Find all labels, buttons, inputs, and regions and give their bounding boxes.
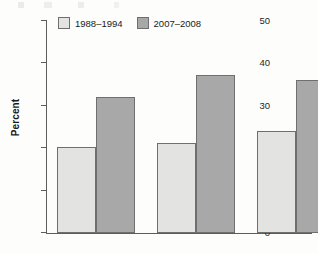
y-axis-label: Percent bbox=[10, 83, 21, 153]
legend-label: 2007–2008 bbox=[154, 18, 202, 29]
y-tick-mark bbox=[41, 232, 46, 233]
y-tick-mark bbox=[41, 62, 46, 63]
y-tick-mark bbox=[41, 20, 46, 21]
x-axis-line bbox=[46, 233, 312, 234]
bar bbox=[257, 131, 296, 233]
y-tick-mark bbox=[41, 190, 46, 191]
bar bbox=[57, 147, 96, 233]
scan-artifact bbox=[18, 2, 168, 8]
bar bbox=[196, 75, 235, 233]
chart-legend: 1988–19942007–2008 bbox=[58, 17, 201, 29]
plot-area bbox=[47, 21, 312, 233]
legend-swatch-icon bbox=[137, 17, 149, 29]
legend-item: 1988–1994 bbox=[58, 17, 123, 29]
y-tick-mark bbox=[41, 105, 46, 106]
bar-chart-figure: Percent 01020304050 1988–19942007–2008 bbox=[0, 0, 318, 253]
legend-label: 1988–1994 bbox=[75, 18, 123, 29]
y-tick-mark bbox=[41, 147, 46, 148]
legend-swatch-icon bbox=[58, 17, 70, 29]
legend-item: 2007–2008 bbox=[137, 17, 202, 29]
bar bbox=[96, 97, 135, 233]
bar bbox=[157, 143, 196, 233]
bar bbox=[296, 80, 318, 233]
